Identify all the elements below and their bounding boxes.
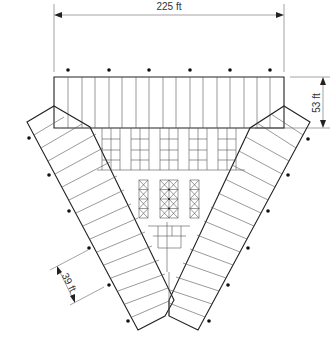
dimension-bay-label: 39 ft <box>60 271 79 294</box>
site-plan-diagram: 225 ft 53 ft 39 ft <box>0 0 335 350</box>
dimension-depth-label: 53 ft <box>311 93 322 113</box>
dimension-width: 225 ft <box>54 1 284 72</box>
lower-courtyard-grid <box>148 222 190 272</box>
braced-structures <box>139 180 199 218</box>
dimension-width-label: 225 ft <box>156 1 181 12</box>
top-parking-block <box>54 77 284 128</box>
left-wing-block <box>27 106 174 330</box>
dimension-bay: 39 ft <box>50 250 104 305</box>
plan-drawing: 225 ft 53 ft 39 ft <box>0 0 335 350</box>
courtyard-grid <box>97 128 245 170</box>
dimension-depth: 53 ft <box>255 77 330 128</box>
